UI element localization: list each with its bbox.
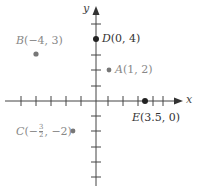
label-a-coords: (1, 2): [123, 63, 153, 76]
label-e: E(3.5, 0): [132, 112, 180, 124]
y-axis: [91, 6, 101, 186]
x-axis-arrow-icon: [174, 98, 183, 105]
label-d-coords: (0, 4): [111, 32, 141, 45]
label-c: C(−32, −2): [16, 124, 72, 139]
label-d-letter: D: [102, 32, 111, 45]
y-axis-arrow-icon: [93, 6, 100, 15]
label-b: B(−4, 3): [16, 35, 63, 47]
label-e-coords: (3.5, 0): [140, 111, 180, 124]
point-b: [33, 51, 38, 56]
label-e-letter: E: [132, 111, 140, 124]
label-a: A(1, 2): [115, 64, 153, 76]
label-b-coords: (−4, 3): [24, 34, 63, 47]
point-d: [93, 36, 99, 42]
label-c-denominator: 2: [39, 132, 43, 139]
point-e: [142, 98, 148, 104]
label-c-fraction: 32: [39, 124, 43, 139]
label-c-pre: (−: [24, 125, 38, 138]
label-c-post: , −2): [44, 125, 72, 138]
label-d: D(0, 4): [102, 33, 140, 45]
label-a-letter: A: [115, 63, 123, 76]
x-axis-label: x: [186, 94, 192, 106]
coordinate-plane: [0, 0, 201, 189]
label-b-letter: B: [16, 34, 24, 47]
point-a: [107, 68, 112, 73]
y-axis-label: y: [83, 3, 89, 15]
x-axis: [5, 96, 183, 106]
